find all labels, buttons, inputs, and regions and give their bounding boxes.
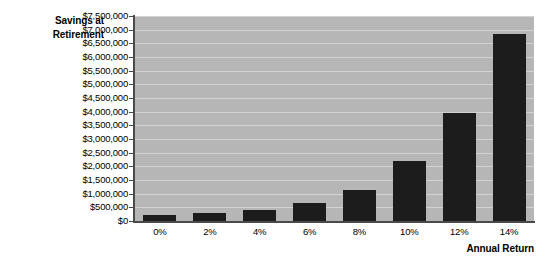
y-axis-tick-label: $2,000,000	[0, 160, 128, 172]
y-axis-tick-label: $4,000,000	[0, 106, 128, 118]
bar	[243, 210, 276, 221]
y-axis-tick-label: $5,500,000	[0, 65, 128, 77]
x-axis-tick-label: 0%	[135, 225, 185, 239]
y-axis-tick-label: $3,000,000	[0, 133, 128, 145]
y-axis-tick-label: $1,000,000	[0, 188, 128, 200]
y-axis-tick-mark	[129, 71, 134, 72]
y-axis-tick-mark	[129, 43, 134, 44]
bar	[293, 203, 326, 221]
x-axis-tick-label: 8%	[334, 225, 384, 239]
x-axis-tick-label: 4%	[235, 225, 285, 239]
y-axis-tick-label: $2,500,000	[0, 147, 128, 159]
savings-at-retirement-bar-chart: Savings at Retirement $0$500,000$1,000,0…	[0, 0, 548, 268]
y-axis-tick-mark	[129, 207, 134, 208]
y-axis-tick-mark	[129, 98, 134, 99]
y-axis-tick-mark	[129, 30, 134, 31]
y-axis-tick-label: $7,500,000	[0, 10, 128, 22]
bar	[443, 113, 476, 221]
y-axis-tick-mark	[129, 57, 134, 58]
y-axis-tick-label: $4,500,000	[0, 92, 128, 104]
bar	[393, 161, 426, 221]
y-axis-tick-label: $0	[0, 215, 128, 227]
bar-series	[135, 16, 534, 221]
plot-area	[135, 16, 534, 221]
y-axis-tick-label: $5,000,000	[0, 78, 128, 90]
y-axis-tick-mark	[129, 153, 134, 154]
y-axis-tick-mark	[129, 166, 134, 167]
y-axis-tick-mark	[129, 112, 134, 113]
y-axis-tick-mark	[129, 194, 134, 195]
y-axis-tick-label: $6,000,000	[0, 51, 128, 63]
y-axis-tick-mark	[129, 139, 134, 140]
y-axis-tick-label: $6,500,000	[0, 37, 128, 49]
y-axis-tick-label: $1,500,000	[0, 174, 128, 186]
x-axis-tick-label: 10%	[384, 225, 434, 239]
x-axis-tick-label: 12%	[434, 225, 484, 239]
y-axis-tick-mark	[129, 84, 134, 85]
x-axis-tick-label: 6%	[285, 225, 335, 239]
x-axis-tick-labels: 0%2%4%6%8%10%12%14%	[135, 225, 534, 241]
y-axis-tick-label: $3,500,000	[0, 119, 128, 131]
bar	[493, 34, 526, 221]
x-axis-line	[133, 221, 535, 223]
y-axis-tick-mark	[129, 125, 134, 126]
y-axis-tick-mark	[129, 16, 134, 17]
x-axis-title: Annual Return	[380, 243, 534, 254]
y-axis-tick-label: $7,000,000	[0, 24, 128, 36]
x-axis-tick-label: 2%	[185, 225, 235, 239]
bar	[193, 213, 226, 221]
y-axis-tick-labels: $0$500,000$1,000,000$1,500,000$2,000,000…	[0, 0, 128, 268]
y-axis-tick-mark	[129, 180, 134, 181]
x-axis-tick-label: 14%	[484, 225, 534, 239]
y-axis-tick-mark	[129, 221, 134, 222]
bar	[343, 190, 376, 221]
y-axis-tick-label: $500,000	[0, 201, 128, 213]
